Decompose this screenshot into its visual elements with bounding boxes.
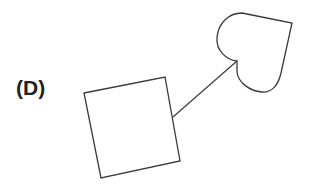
heart-shape — [217, 13, 292, 92]
connector-line — [173, 61, 237, 117]
diagram-canvas — [0, 0, 311, 186]
square-shape — [84, 77, 180, 178]
